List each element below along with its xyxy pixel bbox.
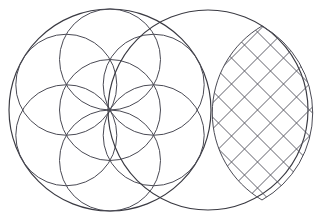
lattice-line-down-7: [197, 0, 318, 41]
lattice-line-down-9: [197, 0, 318, 93]
lattice-line-up-7: [197, 0, 318, 41]
geometry-svg: [0, 0, 319, 223]
diamond-lattice-lines: [197, 0, 318, 223]
seed-of-life-group: [9, 9, 211, 211]
seed-of-life-circles: [16, 9, 204, 211]
right-outer-circle: [108, 10, 308, 210]
lattice-line-down-18: [197, 206, 318, 224]
lattice-line-up-15: [197, 128, 318, 224]
lattice-line-up-18: [197, 206, 318, 224]
figure-canvas: [0, 0, 319, 223]
lattice-line-down-17: [197, 180, 318, 224]
lattice-line-up-17: [197, 180, 318, 224]
lattice-line-up-6: [197, 0, 318, 15]
vesica-outline: [212, 26, 312, 200]
vesica-lattice-fill: [197, 0, 318, 223]
latticed-vesica-group: [108, 0, 318, 223]
lattice-line-up-9: [197, 0, 318, 93]
lattice-line-down-6: [197, 0, 318, 15]
lattice-line-down-15: [197, 128, 318, 224]
